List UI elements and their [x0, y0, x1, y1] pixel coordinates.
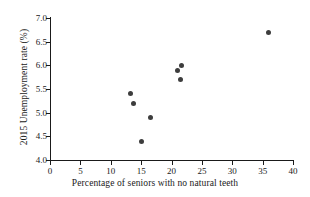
x-tick: [202, 161, 203, 165]
x-tick: [80, 161, 81, 165]
data-point: [175, 68, 180, 73]
x-tick-label: 35: [258, 166, 267, 176]
x-tick-label: 15: [137, 166, 146, 176]
x-tick-label: 0: [48, 166, 53, 176]
x-tick: [263, 161, 264, 165]
x-tick: [111, 161, 112, 165]
data-point: [178, 77, 183, 82]
y-tick-label: 5.5: [36, 84, 47, 94]
y-tick-label: 6.0: [36, 60, 47, 70]
data-point: [131, 101, 136, 106]
x-tick: [293, 161, 294, 165]
x-tick: [172, 161, 173, 165]
data-point: [139, 139, 144, 144]
y-axis-title: 2015 Unemployment rate (%): [19, 12, 29, 162]
data-point: [148, 115, 153, 120]
data-point: [179, 63, 184, 68]
scatter-plot-figure: 0510152025303540 4.04.55.05.56.06.57.0 P…: [0, 0, 310, 197]
y-tick-label: 5.0: [36, 108, 47, 118]
y-tick-label: 4.0: [36, 155, 47, 165]
data-point: [266, 30, 271, 35]
x-tick-label: 25: [197, 166, 206, 176]
x-axis-title: Percentage of seniors with no natural te…: [0, 178, 310, 188]
x-tick: [141, 161, 142, 165]
y-tick-label: 6.5: [36, 37, 47, 47]
x-tick-label: 40: [289, 166, 298, 176]
x-tick-label: 5: [78, 166, 83, 176]
y-tick-label: 4.5: [36, 131, 47, 141]
y-tick-label: 7.0: [36, 13, 47, 23]
x-tick-label: 30: [228, 166, 237, 176]
data-point: [128, 91, 133, 96]
x-tick: [50, 161, 51, 165]
x-tick-label: 20: [167, 166, 176, 176]
x-tick-label: 10: [106, 166, 115, 176]
x-tick: [232, 161, 233, 165]
y-axis-line: [50, 17, 51, 161]
